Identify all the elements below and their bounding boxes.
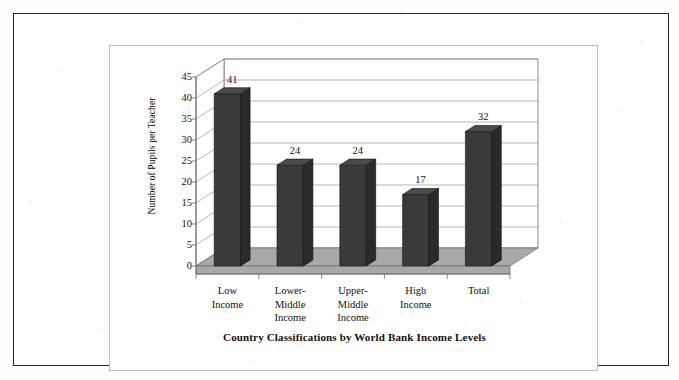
bar-front	[277, 165, 303, 266]
bar-side	[492, 125, 502, 266]
bar-value-label: 32	[463, 111, 503, 122]
scan-speckle	[30, 200, 32, 202]
x-axis-category-label: HighIncome	[385, 284, 447, 311]
category-label-line: Income	[400, 299, 432, 310]
x-axis-category-label: Total	[448, 284, 510, 298]
scan-speckle	[620, 110, 622, 112]
category-label-line: Low	[218, 285, 237, 296]
category-label-line: Income	[337, 312, 369, 323]
x-axis-category-label: Upper-MiddleIncome	[322, 284, 384, 325]
category-label-line: Income	[274, 312, 306, 323]
figure-box: Number of Pupils per Teacher 45403530252…	[109, 45, 598, 371]
scan-speckle	[400, 10, 402, 12]
x-axis-category-label: LowIncome	[196, 284, 258, 311]
bar-side	[241, 88, 251, 266]
bar-front	[214, 94, 240, 266]
bar-side	[366, 159, 376, 266]
bar-value-label: 24	[275, 145, 315, 156]
bar-side	[303, 159, 313, 266]
category-label-line: Middle	[275, 299, 305, 310]
bar-value-label: 24	[338, 145, 378, 156]
category-label-line: Middle	[338, 299, 368, 310]
page-outer-border: Number of Pupils per Teacher 45403530252…	[13, 13, 669, 366]
x-axis-category-label: Lower-MiddleIncome	[259, 284, 321, 325]
category-label-line: Total	[468, 285, 489, 296]
category-label-line: High	[405, 285, 426, 296]
category-label-line: Income	[212, 299, 244, 310]
category-label-line: Upper-	[338, 285, 368, 296]
scan-speckle	[100, 330, 102, 332]
category-label-line: Lower-	[275, 285, 306, 296]
bar-side	[429, 188, 439, 266]
scan-speckle	[300, 20, 302, 22]
scan-speckle	[250, 360, 252, 362]
scan-speckle	[640, 40, 642, 42]
scan-speckle	[60, 70, 62, 72]
bar-front	[340, 165, 366, 266]
scanned-page: Number of Pupils per Teacher 45403530252…	[0, 0, 679, 380]
bar-value-label: 41	[212, 74, 252, 85]
scan-speckle	[520, 300, 522, 302]
bar-front	[465, 132, 491, 266]
scan-speckle	[560, 220, 562, 222]
bar-front	[403, 195, 429, 266]
chart-caption: Country Classifications by World Bank In…	[110, 331, 599, 343]
bar-value-label: 17	[401, 174, 441, 185]
bar-chart: Number of Pupils per Teacher 45403530252…	[110, 46, 599, 372]
